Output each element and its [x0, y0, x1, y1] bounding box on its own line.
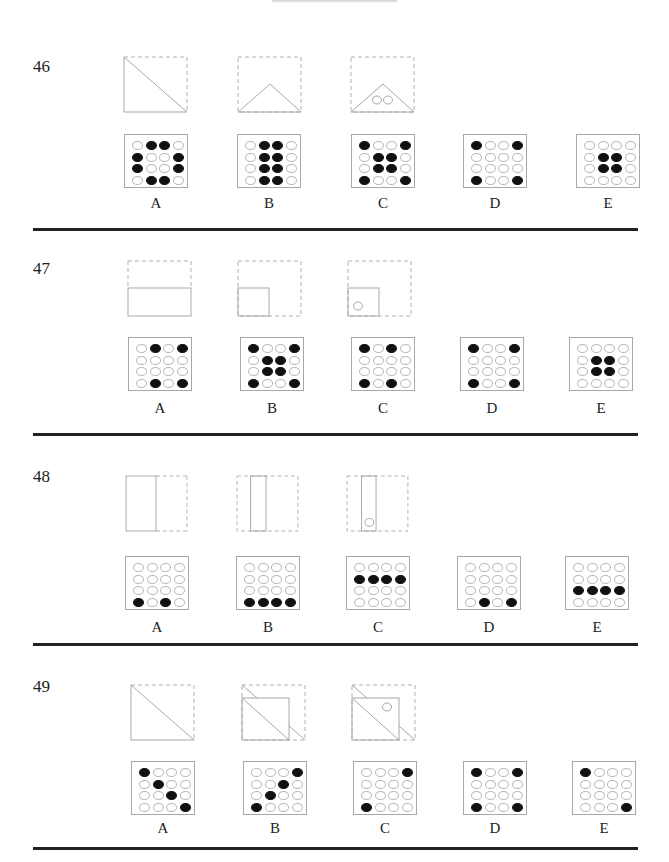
empty-hole-icon [245, 164, 256, 173]
empty-hole-icon [166, 780, 177, 789]
empty-hole-icon [594, 803, 605, 812]
empty-hole-icon [598, 141, 609, 150]
hole-grid [128, 337, 192, 391]
empty-hole-icon [258, 575, 269, 584]
empty-hole-icon [618, 356, 629, 365]
empty-hole-icon [139, 780, 150, 789]
empty-hole-icon [607, 768, 618, 777]
option-b[interactable] [243, 761, 307, 817]
option-c[interactable] [351, 134, 415, 190]
filled-hole-icon [292, 768, 303, 777]
empty-hole-icon [368, 598, 379, 607]
empty-hole-icon [133, 575, 144, 584]
empty-hole-icon [498, 803, 509, 812]
empty-hole-icon [471, 164, 482, 173]
empty-hole-icon [244, 563, 255, 572]
hole-grid [236, 556, 300, 610]
hole-grid [131, 761, 195, 815]
empty-hole-icon [359, 356, 370, 365]
empty-hole-icon [400, 367, 411, 376]
hole-grid [565, 556, 629, 610]
empty-hole-icon [159, 164, 170, 173]
filled-hole-icon [471, 803, 482, 812]
option-label-b: B [237, 195, 301, 212]
option-e[interactable] [576, 134, 640, 190]
option-label-d: D [463, 195, 527, 212]
option-b[interactable] [236, 556, 300, 612]
filled-hole-icon [614, 586, 625, 595]
empty-hole-icon [286, 176, 297, 185]
empty-hole-icon [286, 153, 297, 162]
option-a[interactable] [125, 556, 189, 612]
empty-hole-icon [271, 586, 282, 595]
option-label-a: A [131, 820, 195, 837]
filled-hole-icon [471, 768, 482, 777]
option-e[interactable] [565, 556, 629, 612]
empty-hole-icon [580, 780, 591, 789]
section-divider [33, 433, 638, 436]
option-b[interactable] [237, 134, 301, 190]
fold-step-3 [348, 261, 411, 316]
filled-hole-icon [471, 141, 482, 150]
option-c[interactable] [346, 556, 410, 612]
filled-hole-icon [373, 153, 384, 162]
question-number: 48 [33, 467, 50, 487]
empty-hole-icon [177, 367, 188, 376]
option-d[interactable] [463, 761, 527, 817]
empty-hole-icon [471, 791, 482, 800]
fold-step-1 [125, 476, 188, 531]
option-d[interactable] [460, 337, 524, 393]
empty-hole-icon [174, 563, 185, 572]
empty-hole-icon [278, 803, 289, 812]
option-b[interactable] [240, 337, 304, 393]
option-a[interactable] [124, 134, 188, 190]
filled-hole-icon [402, 768, 413, 777]
empty-hole-icon [388, 780, 399, 789]
empty-hole-icon [577, 356, 588, 365]
empty-hole-icon [594, 791, 605, 800]
empty-hole-icon [354, 586, 365, 595]
empty-hole-icon [485, 803, 496, 812]
empty-hole-icon [271, 563, 282, 572]
filled-hole-icon [259, 176, 270, 185]
empty-hole-icon [498, 164, 509, 173]
option-label-b: B [236, 619, 300, 636]
fold-step-3 [351, 57, 414, 112]
option-d[interactable] [457, 556, 521, 612]
option-a[interactable] [128, 337, 192, 393]
empty-hole-icon [147, 575, 158, 584]
fold-step-1 [124, 57, 187, 112]
filled-hole-icon [509, 344, 520, 353]
empty-hole-icon [258, 563, 269, 572]
empty-hole-icon [361, 768, 372, 777]
option-a[interactable] [131, 761, 195, 817]
section-divider [33, 228, 638, 231]
fold-step-2 [238, 57, 301, 112]
empty-hole-icon [354, 563, 365, 572]
empty-hole-icon [381, 563, 392, 572]
option-c[interactable] [353, 761, 417, 817]
filled-hole-icon [512, 176, 523, 185]
filled-hole-icon [278, 780, 289, 789]
empty-hole-icon [278, 768, 289, 777]
empty-hole-icon [386, 141, 397, 150]
empty-hole-icon [498, 768, 509, 777]
filled-hole-icon [468, 379, 479, 388]
empty-hole-icon [492, 586, 503, 595]
option-e[interactable] [572, 761, 636, 817]
empty-hole-icon [580, 803, 591, 812]
empty-hole-icon [495, 356, 506, 365]
empty-hole-icon [354, 598, 365, 607]
empty-hole-icon [262, 344, 273, 353]
empty-hole-icon [163, 344, 174, 353]
option-e[interactable] [569, 337, 633, 393]
filled-hole-icon [386, 164, 397, 173]
empty-hole-icon [614, 575, 625, 584]
filled-hole-icon [166, 791, 177, 800]
empty-hole-icon [278, 791, 289, 800]
option-c[interactable] [351, 337, 415, 393]
option-d[interactable] [463, 134, 527, 190]
filled-hole-icon [258, 598, 269, 607]
filled-hole-icon [354, 575, 365, 584]
filled-hole-icon [272, 176, 283, 185]
